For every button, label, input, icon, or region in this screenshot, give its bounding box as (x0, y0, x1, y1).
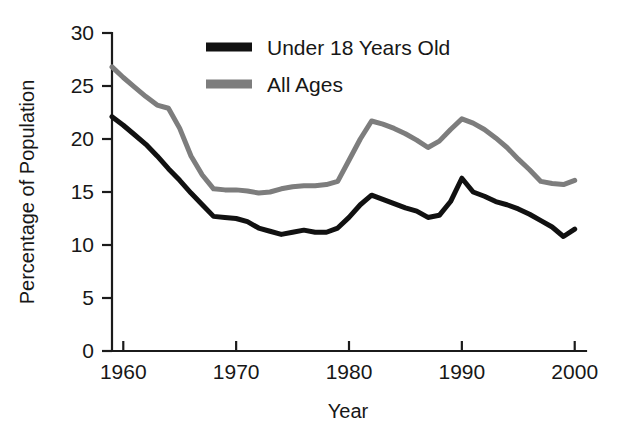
x-tick-label: 2000 (551, 360, 598, 383)
y-tick-label: 15 (71, 180, 94, 203)
x-tick-label: 1990 (438, 360, 485, 383)
series-line-all-ages (112, 67, 575, 193)
legend-label: Under 18 Years Old (267, 36, 450, 59)
y-tick-label: 25 (71, 74, 94, 97)
x-axis-ticks: 19601970198019902000 (100, 341, 598, 383)
x-tick-label: 1970 (213, 360, 260, 383)
x-axis-title: Year (328, 400, 369, 422)
axes-group (112, 33, 586, 351)
chart-figure: 051015202530 19601970198019902000 Year P… (0, 0, 628, 442)
legend-label: All Ages (267, 73, 343, 96)
chart-legend: Under 18 Years OldAll Ages (206, 36, 450, 96)
y-tick-label: 20 (71, 127, 94, 150)
y-axis-title: Percentage of Population (16, 80, 38, 305)
y-tick-label: 5 (82, 286, 94, 309)
y-tick-label: 30 (71, 21, 94, 44)
y-tick-label: 0 (82, 339, 94, 362)
line-chart-canvas: 051015202530 19601970198019902000 Year P… (0, 0, 628, 442)
x-tick-label: 1960 (100, 360, 147, 383)
y-axis-ticks: 051015202530 (71, 21, 112, 362)
y-tick-label: 10 (71, 233, 94, 256)
data-series-group (112, 67, 575, 237)
x-tick-label: 1980 (326, 360, 373, 383)
